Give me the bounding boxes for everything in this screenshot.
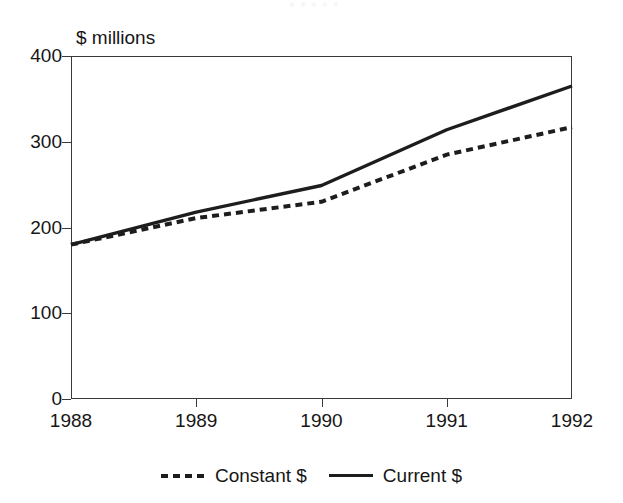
line-chart: • • • • • $ millions 0100200300400198819…	[0, 0, 623, 503]
series-layer	[0, 0, 623, 503]
series-line-current	[71, 86, 572, 245]
legend-item-label: Constant $	[215, 466, 307, 485]
chart-legend: Constant $Current $	[0, 466, 623, 485]
legend-item: Current $	[329, 466, 462, 485]
legend-item: Constant $	[161, 466, 307, 485]
legend-item-label: Current $	[383, 466, 462, 485]
legend-swatch-solid	[329, 474, 373, 477]
legend-swatch-dashed	[161, 474, 205, 478]
